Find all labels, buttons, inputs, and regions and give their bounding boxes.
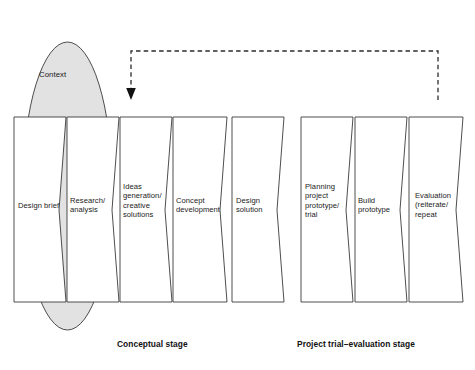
design-process-diagram: Context Design brief Research/ analysis … xyxy=(0,0,475,370)
feedback-loop-arrow xyxy=(126,51,438,100)
caption-conceptual-stage: Conceptual stage xyxy=(117,339,188,349)
stage-label-planning-project-prototype-trial: Planning project prototype/ trial xyxy=(305,182,353,220)
stage-label-design-brief: Design brief xyxy=(18,201,66,210)
feedback-loop-arrowhead xyxy=(126,88,136,100)
diagram-canvas xyxy=(0,0,475,370)
context-label: Context xyxy=(39,70,66,79)
stage-label-research-analysis: Research/ analysis xyxy=(70,196,118,215)
stage-label-build-prototype: Build prototype xyxy=(358,196,404,215)
stage-label-evaluation-reiterate-repeat: Evaluation (reiterate/ repeat xyxy=(415,191,463,219)
feedback-loop-line xyxy=(131,51,438,100)
stage-label-design-solution: Design solution xyxy=(236,196,282,215)
stage-label-ideas-generation: Ideas generation/ creative solutions xyxy=(123,182,171,220)
stage-label-concept-development: Concept development xyxy=(176,196,226,215)
caption-project-trial-evaluation-stage: Project trial–evaluation stage xyxy=(297,339,415,349)
